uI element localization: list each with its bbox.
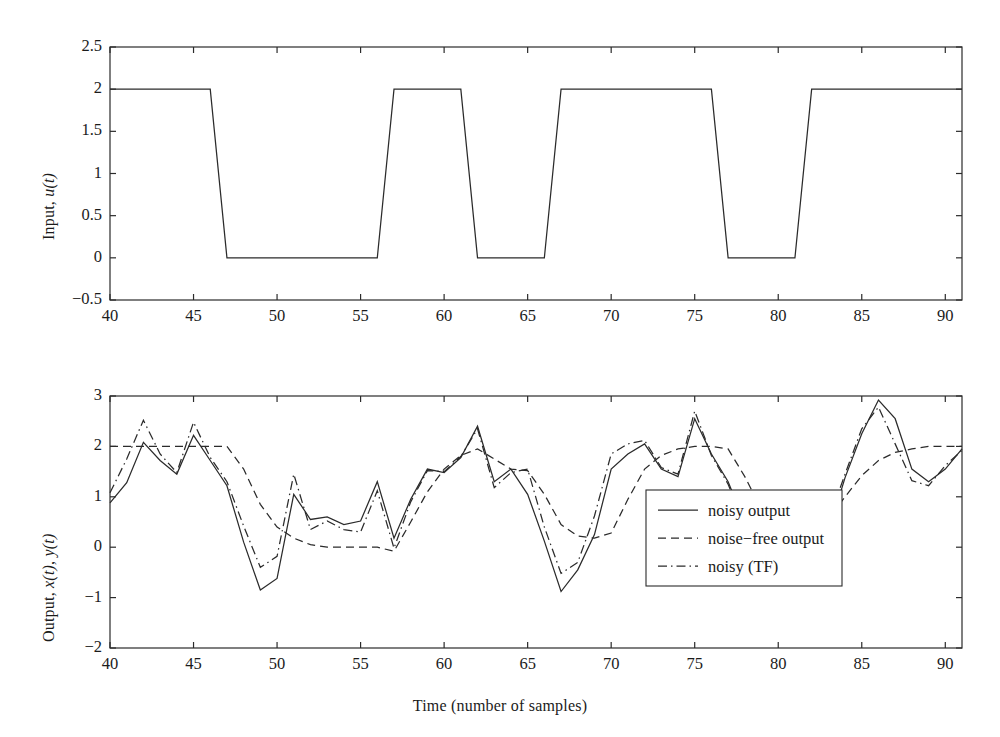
figure-root: Input, u(t) Output, x(t), y(t) Time (num… xyxy=(0,0,1000,737)
y-tick-label: 0.5 xyxy=(38,205,102,225)
legend-label: noisy (TF) xyxy=(708,557,778,576)
x-tick-label: 45 xyxy=(164,654,224,674)
output-chart-panel: Output, x(t), y(t) Time (number of sampl… xyxy=(0,350,1000,737)
y-tick-label: 1 xyxy=(38,163,102,183)
y-tick-label: −2 xyxy=(38,637,102,657)
y-tick-label: 2 xyxy=(38,435,102,455)
x-tick-label: 60 xyxy=(414,306,474,326)
y-tick-label: 0 xyxy=(38,536,102,556)
y-tick-label: −1 xyxy=(38,587,102,607)
x-tick-label: 85 xyxy=(832,654,892,674)
x-tick-label: 90 xyxy=(915,306,975,326)
input-chart-panel: Input, u(t) xyxy=(0,0,1000,350)
x-tick-label: 50 xyxy=(247,654,307,674)
legend-label: noise−free output xyxy=(708,529,824,548)
x-tick-label: 65 xyxy=(498,654,558,674)
plot-frame xyxy=(110,47,962,300)
x-tick-label: 50 xyxy=(247,306,307,326)
series-solid xyxy=(110,89,962,258)
x-tick-label: 75 xyxy=(665,306,725,326)
x-tick-label: 40 xyxy=(80,654,140,674)
output-x-axis-label: Time (number of samples) xyxy=(413,697,587,715)
y-tick-label: 1.5 xyxy=(38,120,102,140)
output-chart-svg: noisy outputnoise−free outputnoisy (TF) xyxy=(0,350,1000,737)
y-tick-label: 3 xyxy=(38,385,102,405)
x-tick-label: 65 xyxy=(498,306,558,326)
x-tick-label: 55 xyxy=(331,654,391,674)
y-tick-label: 1 xyxy=(38,486,102,506)
y-tick-label: 2.5 xyxy=(38,36,102,56)
x-tick-label: 45 xyxy=(164,306,224,326)
x-tick-label: 55 xyxy=(331,306,391,326)
x-tick-label: 90 xyxy=(915,654,975,674)
x-tick-label: 85 xyxy=(832,306,892,326)
x-tick-label: 40 xyxy=(80,306,140,326)
y-tick-label: −0.5 xyxy=(38,289,102,309)
x-tick-label: 80 xyxy=(748,306,808,326)
x-tick-label: 70 xyxy=(581,306,641,326)
y-tick-label: 2 xyxy=(38,78,102,98)
legend-label: noisy output xyxy=(708,501,790,520)
y-tick-label: 0 xyxy=(38,247,102,267)
input-chart-svg xyxy=(0,0,1000,350)
x-tick-label: 75 xyxy=(665,654,725,674)
x-tick-label: 60 xyxy=(414,654,474,674)
x-tick-label: 80 xyxy=(748,654,808,674)
x-tick-label: 70 xyxy=(581,654,641,674)
